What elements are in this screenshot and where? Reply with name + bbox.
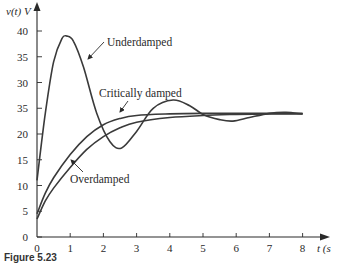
annotation-underdamped-label: Underdamped [107,36,172,49]
x-axis-arrow-icon [320,234,330,241]
annotation-overdamped: Overdamped [70,160,130,186]
curve-underdamped [37,36,303,181]
annotation-underdamped-arrow-icon [88,42,104,59]
x-axis-title: t (s [317,242,331,255]
annotation-critically-damped-arrow-icon [120,101,128,112]
y-axis-title: v(t) V [6,5,32,18]
annotation-overdamped-arrow-icon [71,160,83,172]
curve-critically-damped [37,113,303,213]
curves [37,36,303,219]
annotation-overdamped-label: Overdamped [70,173,130,186]
y-tick-label: 40 [17,25,29,37]
y-tick-label: 30 [17,77,29,89]
x-tick-label: 8 [300,242,306,254]
y-tick-label: 10 [17,180,29,192]
x-tick-label: 7 [267,242,273,254]
y-tick-label: 0 [23,231,29,243]
x-axis [37,234,330,241]
y-axis [34,2,41,237]
y-tick-label: 35 [17,102,29,114]
y-tick-label: 35 [17,51,29,63]
y-tick-label: 5 [23,205,29,217]
annotation-critically-damped: Critically damped [99,87,182,112]
y-tick-label: 15 [17,154,29,166]
x-tick-label: 2 [101,242,107,254]
x-tick-label: 4 [167,242,173,254]
x-tick-label: 3 [134,242,140,254]
figure-caption: Figure 5.23 [4,252,57,263]
y-tick-label: 20 [17,128,29,140]
x-tick-label: 6 [233,242,239,254]
annotation-underdamped: Underdamped [88,36,172,59]
x-ticks: 012345678 [34,233,306,254]
x-tick-label: 5 [200,242,206,254]
y-axis-arrow-icon [34,2,41,11]
x-tick-label: 1 [67,242,73,254]
annotation-critically-damped-label: Critically damped [99,87,182,100]
